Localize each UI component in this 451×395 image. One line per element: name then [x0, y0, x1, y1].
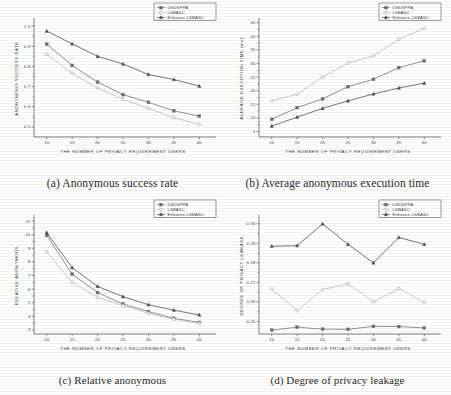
data-point-circle: [45, 53, 48, 56]
y-axis-title: AVERAGE EXECUTION TIME (ms): [239, 37, 244, 120]
data-point-circle: [147, 312, 150, 315]
x-axis-title: THE NUMBER OF PRIVACY REQUIREMENT USERS: [285, 149, 411, 154]
data-point-circle: [198, 322, 201, 325]
y-tick-label: 0.6: [24, 104, 31, 109]
panel-c: 3456789101110152025303540THE NUMBER OF P…: [0, 197, 225, 394]
data-point-circle: [122, 304, 125, 307]
data-point-triangle: [397, 236, 400, 239]
data-point-circle: [321, 288, 324, 291]
x-tick-label: 15: [70, 337, 75, 342]
chart-c: 3456789101110152025303540THE NUMBER OF P…: [0, 197, 225, 365]
data-point-square: [270, 118, 273, 121]
x-tick-label: 35: [396, 140, 401, 145]
x-tick-label: 25: [121, 337, 126, 342]
x-tick-label: 40: [422, 337, 427, 342]
chart-a: 0.50.60.70.80.91.010152025303540THE NUMB…: [0, 0, 225, 168]
data-point-square: [321, 328, 324, 331]
y-tick-label: 0.28: [247, 260, 256, 265]
data-point-square: [296, 326, 299, 329]
y-tick-label: 0.25: [247, 319, 256, 324]
data-point-circle: [270, 99, 273, 102]
plot-area-a: 0.50.60.70.80.91.010152025303540THE NUMB…: [0, 0, 225, 168]
x-axis-title: THE NUMBER OF PRIVACY REQUIREMENT USERS: [60, 149, 186, 154]
x-tick-label: 25: [346, 337, 351, 342]
panel-b: 5101520253035404510152025303540THE NUMBE…: [225, 0, 450, 197]
data-point-square: [347, 328, 350, 331]
data-point-circle: [423, 27, 426, 30]
data-point-square: [372, 78, 375, 81]
data-point-circle: [71, 72, 74, 75]
data-point-circle: [96, 87, 99, 90]
x-tick-label: 25: [121, 140, 126, 145]
y-tick-label: 0.8: [24, 64, 31, 69]
y-tick-label: 40: [250, 34, 255, 39]
y-tick-label: 0.30: [247, 221, 256, 226]
series-line-dsdsppa: [272, 61, 425, 119]
data-point-circle: [385, 11, 388, 14]
x-tick-label: 15: [70, 140, 75, 145]
data-point-square: [160, 6, 163, 9]
x-axis-title: THE NUMBER OF PRIVACY REQUIREMENT USERS: [60, 346, 186, 351]
data-point-triangle: [321, 222, 324, 225]
legend-label-enhance-lsbasc: Enhance-LSBASC: [168, 212, 205, 217]
plot-area-b: 5101520253035404510152025303540THE NUMBE…: [225, 0, 450, 168]
y-tick-label: 5: [253, 129, 256, 134]
y-tick-label: 0.26: [247, 299, 256, 304]
data-point-circle: [198, 123, 201, 126]
x-tick-label: 20: [95, 140, 100, 145]
y-tick-label: 6: [28, 287, 31, 292]
series-line-enhance-lsbasc: [272, 83, 425, 126]
x-tick-label: 15: [295, 140, 300, 145]
y-tick-label: 30: [250, 61, 255, 66]
data-point-square: [423, 327, 426, 330]
data-point-square: [172, 109, 175, 112]
y-tick-label: 9: [28, 246, 31, 251]
data-point-square: [96, 291, 99, 294]
data-point-circle: [347, 282, 350, 285]
data-point-circle: [160, 208, 163, 211]
x-tick-label: 40: [197, 140, 202, 145]
data-point-square: [147, 101, 150, 104]
x-tick-label: 35: [171, 337, 176, 342]
x-tick-label: 30: [146, 337, 151, 342]
x-tick-label: 35: [171, 140, 176, 145]
data-point-square: [321, 97, 324, 100]
x-tick-label: 20: [320, 337, 325, 342]
data-point-square: [270, 329, 273, 332]
x-tick-label: 10: [269, 140, 274, 145]
x-tick-label: 20: [95, 337, 100, 342]
data-point-circle: [71, 281, 74, 284]
data-point-circle: [296, 93, 299, 96]
y-tick-label: 15: [250, 102, 255, 107]
y-axis-title: DEGREE OF PRIVACY LEAKAGE: [239, 236, 244, 316]
data-point-circle: [296, 309, 299, 312]
data-point-circle: [372, 54, 375, 57]
y-tick-label: 10: [25, 232, 30, 237]
data-point-circle: [385, 208, 388, 211]
legend-label-enhance-lsbasc: Enhance-LSBASC: [393, 15, 430, 20]
panel-a: 0.50.60.70.80.91.010152025303540THE NUMB…: [0, 0, 225, 197]
y-tick-label: 5: [28, 300, 31, 305]
data-point-triangle: [45, 231, 48, 234]
data-point-square: [385, 6, 388, 9]
data-point-circle: [321, 76, 324, 79]
panel-c-caption: (c) Relative anonymous: [0, 374, 225, 386]
data-point-square: [71, 273, 74, 276]
y-tick-label: 3: [28, 327, 31, 332]
x-tick-label: 15: [295, 337, 300, 342]
y-tick-label: 0.9: [24, 44, 31, 49]
series-line-lsbasc: [47, 252, 200, 324]
y-tick-label: 20: [250, 88, 255, 93]
data-point-circle: [172, 318, 175, 321]
y-tick-label: 7: [28, 273, 31, 278]
data-point-circle: [423, 301, 426, 304]
series-line-enhance-lsbasc: [47, 31, 200, 86]
y-tick-label: 1.0: [24, 24, 31, 29]
data-point-triangle: [423, 81, 426, 84]
y-tick-label: 45: [250, 20, 255, 25]
y-tick-label: 0.27: [247, 280, 256, 285]
data-point-square: [296, 106, 299, 109]
y-tick-label: 8: [28, 259, 31, 264]
panel-a-caption: (a) Anonymous success rate: [0, 177, 225, 189]
x-tick-label: 10: [44, 337, 49, 342]
